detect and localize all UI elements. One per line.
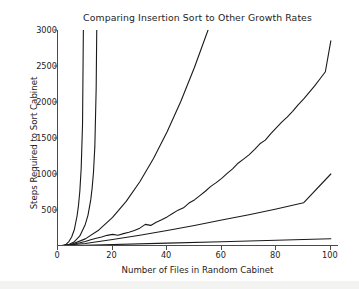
x-tick-mark — [57, 246, 58, 250]
x-tick-label: 60 — [215, 250, 225, 260]
series-line-insertion-sort-random — [58, 41, 331, 246]
x-tick-mark — [112, 246, 113, 250]
plot-area — [57, 30, 338, 246]
x-axis-title: Number of Files in Random Cabinet — [57, 265, 338, 275]
series-line-nlogn-growth — [58, 174, 331, 246]
x-tick-mark — [330, 246, 331, 250]
chart-title: Comparing Insertion Sort to Other Growth… — [57, 12, 338, 23]
y-tick-label: 3000 — [23, 25, 57, 35]
x-tick-label: 40 — [161, 250, 171, 260]
x-tick-mark — [221, 246, 222, 250]
plot-card: Comparing Insertion Sort to Other Growth… — [0, 0, 359, 281]
series-lines — [58, 30, 338, 246]
x-tick-label: 0 — [54, 250, 59, 260]
series-line-steep-growth-a — [58, 30, 83, 246]
figure-canvas: Comparing Insertion Sort to Other Growth… — [0, 0, 359, 289]
x-tick-mark — [166, 246, 167, 250]
x-tick-label: 20 — [106, 250, 116, 260]
y-axis-title: Steps Required to Sort Cabinet — [29, 48, 39, 238]
series-line-linear-growth — [58, 239, 331, 246]
x-axis-ticks: 020406080100 — [57, 246, 338, 264]
series-line-quadratic-growth — [58, 30, 208, 246]
x-tick-label: 100 — [322, 250, 338, 260]
x-tick-mark — [275, 246, 276, 250]
x-tick-label: 80 — [270, 250, 280, 260]
